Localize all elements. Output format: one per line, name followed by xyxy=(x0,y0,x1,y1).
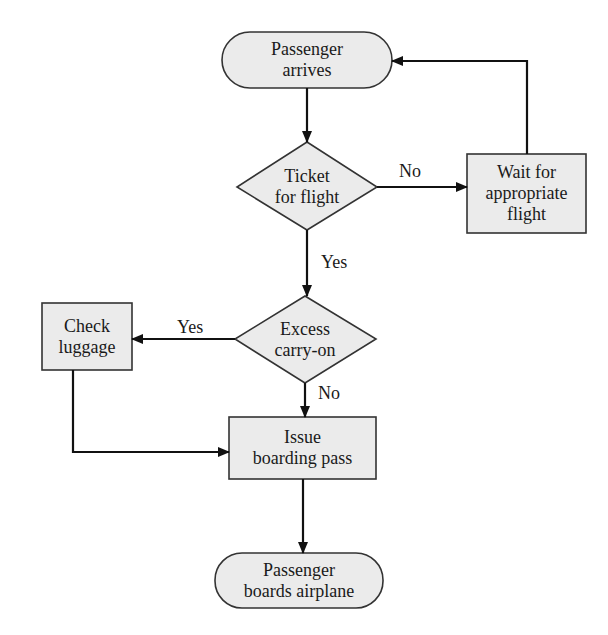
edge-label-excess-no: No xyxy=(318,383,340,403)
label-issue-boarding-pass: Issue boarding pass xyxy=(229,417,376,479)
edge-wait-to-start xyxy=(392,61,527,154)
label-ticket-for-flight: Ticket for flight xyxy=(247,150,367,224)
label-excess-carry-on: Excess carry-on xyxy=(245,304,365,376)
flowchart-canvas: Passenger arrives Ticket for flight Wait… xyxy=(0,0,608,635)
edge-label-excess-yes: Yes xyxy=(177,317,203,337)
edge-label-ticket-yes: Yes xyxy=(321,252,347,272)
label-check-luggage: Check luggage xyxy=(42,303,132,370)
label-passenger-arrives: Passenger arrives xyxy=(222,32,392,88)
edge-luggage-to-issue xyxy=(73,370,229,452)
label-wait-for-flight: Wait for appropriate flight xyxy=(467,154,586,233)
edge-label-ticket-no: No xyxy=(399,161,421,181)
label-passenger-boards: Passenger boards airplane xyxy=(215,553,383,608)
